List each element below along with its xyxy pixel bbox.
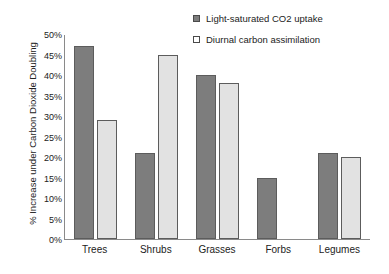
- x-axis-tick-labels: TreesShrubsGrassesForbsLegumes: [64, 244, 370, 256]
- bar[interactable]: [135, 153, 155, 239]
- plot-area: [64, 35, 370, 240]
- legend-item-label: Light-saturated CO2 uptake: [206, 13, 323, 24]
- y-axis-tick-label: 30%: [30, 112, 62, 122]
- y-axis-tick-label: 0%: [30, 235, 62, 245]
- x-axis-tick-label: Shrubs: [125, 244, 186, 256]
- y-axis-tick-label: 35%: [30, 92, 62, 102]
- y-axis-tick-label: 45%: [30, 51, 62, 61]
- bar[interactable]: [97, 120, 117, 239]
- bar[interactable]: [196, 75, 216, 239]
- y-axis-tick-label: 50%: [30, 30, 62, 40]
- y-axis-tick-label: 20%: [30, 153, 62, 163]
- bar-group: [126, 35, 187, 239]
- bar[interactable]: [74, 46, 94, 239]
- legend-item-light-saturated-co2-uptake[interactable]: Light-saturated CO2 uptake: [193, 10, 383, 27]
- y-axis-tick-label: 40%: [30, 71, 62, 81]
- y-axis-tick-labels: 50%45%40%35%30%25%20%15%10%5%0%: [30, 30, 62, 240]
- bar[interactable]: [219, 83, 239, 239]
- bar-group: [65, 35, 126, 239]
- x-axis-tick-label: Trees: [64, 244, 125, 256]
- x-axis-tick-label: Grasses: [186, 244, 247, 256]
- bar[interactable]: [318, 153, 338, 239]
- y-axis-tick-label: 25%: [30, 133, 62, 143]
- bars-layer: [65, 35, 370, 239]
- bar-chart: Light-saturated CO2 uptake Diurnal carbo…: [0, 0, 389, 274]
- bar[interactable]: [158, 55, 178, 240]
- bar[interactable]: [257, 178, 277, 240]
- x-axis-tick-label: Forbs: [248, 244, 309, 256]
- y-axis-tick-label: 5%: [30, 215, 62, 225]
- y-axis-tick-label: 10%: [30, 194, 62, 204]
- x-axis-tick-label: Legumes: [309, 244, 370, 256]
- bar-group: [309, 35, 370, 239]
- bar[interactable]: [341, 157, 361, 239]
- bar-group: [248, 35, 309, 239]
- y-axis-tick-label: 15%: [30, 174, 62, 184]
- legend-swatch-filled-icon: [193, 15, 200, 22]
- bar-group: [187, 35, 248, 239]
